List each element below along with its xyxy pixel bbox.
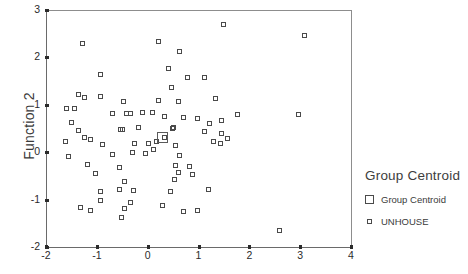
- data-point: [128, 111, 133, 116]
- x-tick-label: 3: [291, 250, 309, 261]
- data-point: [69, 120, 74, 125]
- data-point: [225, 136, 230, 141]
- y-axis-title: Function 2: [21, 71, 37, 181]
- data-point: [76, 92, 81, 97]
- data-point: [169, 85, 174, 90]
- data-point: [110, 111, 115, 116]
- data-point: [202, 75, 207, 80]
- data-point: [63, 139, 68, 144]
- data-point: [117, 187, 122, 192]
- scatter-plot-figure: Function 2 3210-1-2 -2-101234 Group Cent…: [0, 0, 468, 274]
- data-point: [211, 139, 216, 144]
- data-point: [173, 163, 178, 168]
- legend-item-label: UNHOUSE: [381, 216, 429, 227]
- data-point: [202, 129, 207, 134]
- data-point: [207, 121, 212, 126]
- data-point: [195, 116, 200, 121]
- legend-item-label: Group Centroid: [381, 194, 446, 205]
- data-point: [82, 135, 87, 140]
- data-point: [121, 99, 126, 104]
- plot-frame-right: [351, 10, 352, 248]
- data-point: [160, 203, 165, 208]
- data-point: [181, 115, 186, 120]
- legend-swatch-icon: [365, 195, 374, 204]
- x-tick-label: 4: [342, 250, 360, 261]
- data-point: [88, 137, 93, 142]
- data-point: [156, 39, 161, 44]
- x-tick-label: 0: [139, 250, 157, 261]
- data-point: [221, 22, 226, 27]
- data-point: [122, 179, 127, 184]
- legend-title: Group Centroid: [365, 168, 468, 183]
- data-point: [277, 228, 282, 233]
- data-point: [98, 72, 103, 77]
- data-point: [72, 106, 77, 111]
- data-point: [80, 41, 85, 46]
- legend-swatch-icon: [367, 219, 372, 224]
- x-tick-label: 2: [240, 250, 258, 261]
- data-point: [85, 162, 90, 167]
- x-tick-label: -2: [37, 250, 55, 261]
- data-point: [64, 106, 69, 111]
- data-point: [66, 154, 71, 159]
- data-point: [166, 66, 171, 71]
- data-point: [119, 215, 124, 220]
- y-tick-label: 0: [24, 146, 40, 157]
- data-point: [110, 152, 115, 157]
- data-point: [100, 142, 105, 147]
- data-point: [143, 151, 148, 156]
- legend: Group Centroid Group CentroidUNHOUSE: [365, 168, 468, 238]
- data-point: [185, 75, 190, 80]
- data-point: [177, 49, 182, 54]
- data-point: [176, 170, 181, 175]
- x-tick-label: -1: [88, 250, 106, 261]
- data-point: [76, 128, 81, 133]
- data-point: [146, 141, 151, 146]
- data-point: [219, 131, 224, 136]
- data-point: [122, 206, 127, 211]
- data-point: [190, 172, 195, 177]
- data-point: [117, 165, 122, 170]
- data-point: [219, 118, 224, 123]
- data-point: [302, 33, 307, 38]
- y-tick-label: 2: [24, 51, 40, 62]
- data-point: [93, 171, 98, 176]
- data-point: [173, 143, 178, 148]
- data-point: [206, 187, 211, 192]
- data-point: [130, 150, 135, 155]
- data-point: [181, 209, 186, 214]
- y-tick-label: 1: [24, 99, 40, 110]
- data-point: [162, 114, 167, 119]
- data-point: [120, 127, 125, 132]
- data-point: [78, 205, 83, 210]
- data-point: [177, 153, 182, 158]
- data-point: [213, 96, 218, 101]
- y-tick-label: 3: [24, 4, 40, 15]
- data-point: [172, 177, 177, 182]
- data-point: [98, 189, 103, 194]
- data-point: [187, 164, 192, 169]
- data-point: [128, 200, 133, 205]
- data-point: [151, 147, 156, 152]
- data-point: [132, 141, 137, 146]
- data-point: [140, 110, 145, 115]
- data-point: [168, 189, 173, 194]
- legend-item[interactable]: UNHOUSE: [365, 216, 468, 227]
- data-point: [171, 125, 176, 130]
- data-point: [88, 208, 93, 213]
- data-point: [156, 98, 161, 103]
- group-centroid-marker: [157, 132, 168, 143]
- data-point: [218, 141, 223, 146]
- data-point: [195, 208, 200, 213]
- legend-entries: Group CentroidUNHOUSE: [365, 194, 468, 227]
- data-point: [131, 188, 136, 193]
- data-point: [98, 198, 103, 203]
- data-point: [296, 112, 301, 117]
- data-point: [150, 110, 155, 115]
- data-point: [176, 99, 181, 104]
- x-tick-label: 1: [190, 250, 208, 261]
- data-point: [82, 95, 87, 100]
- legend-item[interactable]: Group Centroid: [365, 194, 468, 205]
- data-point: [235, 112, 240, 117]
- data-point: [136, 125, 141, 130]
